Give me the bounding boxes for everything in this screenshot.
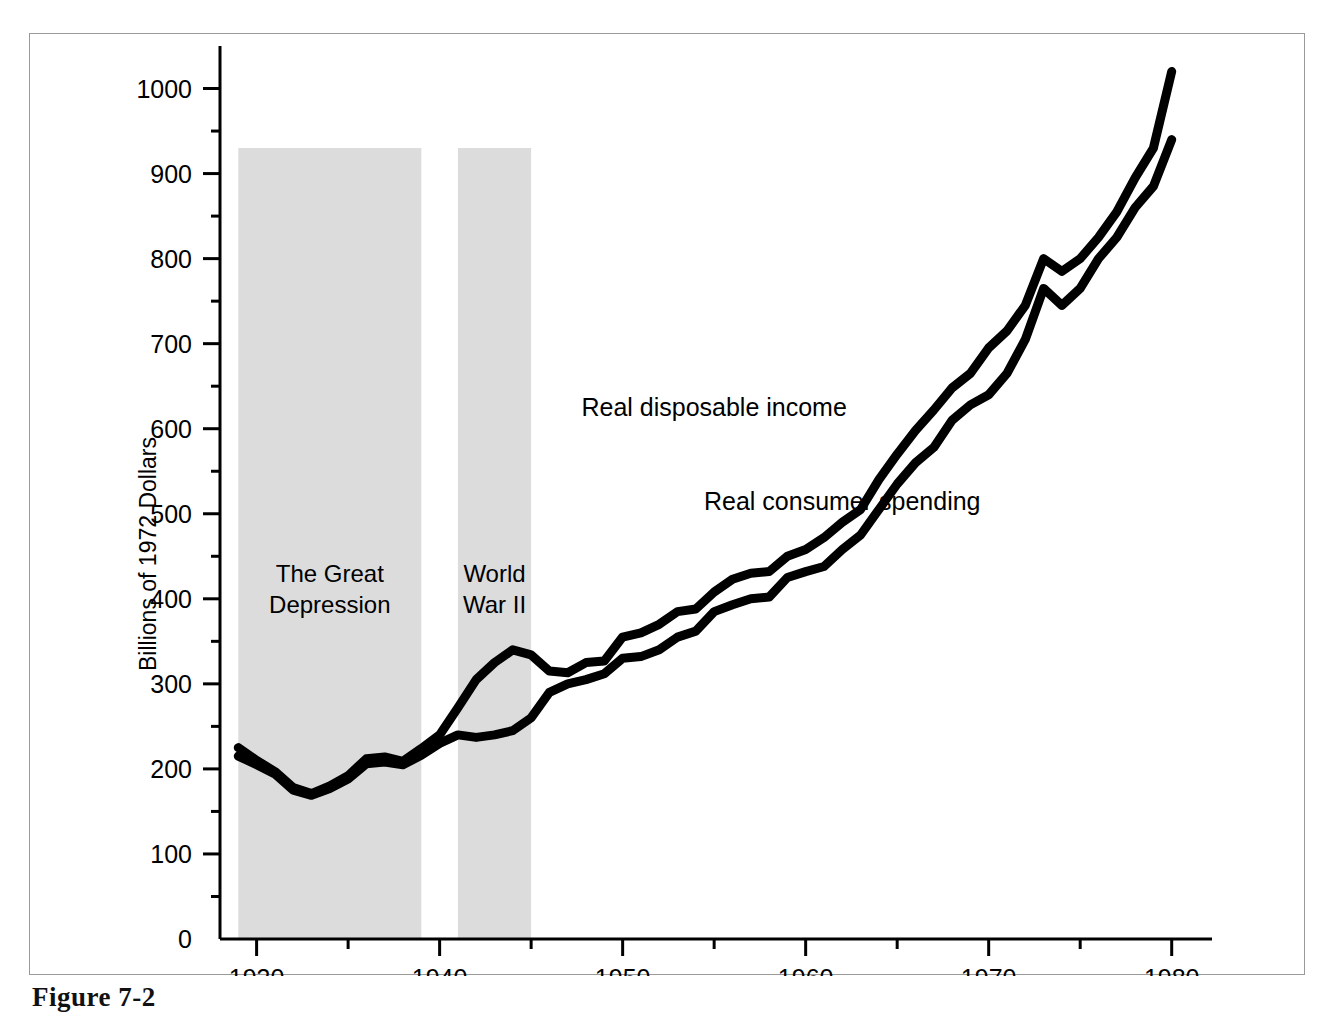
band-label-world-war-ii-line2: War II — [463, 591, 526, 618]
band-label-world-war-ii-line1: World — [463, 560, 525, 587]
series-label-real-disposable-income: Real disposable income — [581, 393, 846, 421]
y-axis-tick-label: 0 — [178, 925, 192, 953]
figure-caption: Figure 7-2 — [32, 982, 156, 1013]
y-axis-tick-label: 800 — [150, 245, 192, 273]
shaded-band-great-depression — [238, 148, 421, 939]
y-axis-tick-label: 100 — [150, 840, 192, 868]
y-axis-tick-label: 200 — [150, 755, 192, 783]
x-axis-tick-label: 1970 — [961, 964, 1017, 976]
y-axis-tick-label: 1000 — [136, 75, 192, 103]
chart-plot: 01002003004005006007008009001000 1930194… — [30, 34, 1306, 976]
y-axis-tick-label: 700 — [150, 330, 192, 358]
x-axis-tick-label: 1960 — [778, 964, 834, 976]
x-axis-tick-label: 1950 — [595, 964, 651, 976]
x-axis-tick-label: 1980 — [1144, 964, 1200, 976]
figure-frame: 01002003004005006007008009001000 1930194… — [29, 33, 1305, 975]
band-label-great-depression-line2: Depression — [269, 591, 390, 618]
x-axis-tick-label: 1940 — [412, 964, 468, 976]
x-axis-tick-label: 1930 — [229, 964, 285, 976]
y-axis-tick-label: 300 — [150, 670, 192, 698]
y-axis-tick-label: 900 — [150, 160, 192, 188]
band-label-great-depression-line1: The Great — [276, 560, 384, 587]
x-axis-tick-labels: 193019401950196019701980 — [229, 964, 1200, 976]
shaded-band-group — [238, 148, 531, 939]
y-axis-title: Billions of 1972 Dollars — [135, 437, 161, 671]
series-label-real-consumer-spending: Real consumer spending — [704, 487, 981, 515]
shaded-band-world-war-ii — [458, 148, 531, 939]
